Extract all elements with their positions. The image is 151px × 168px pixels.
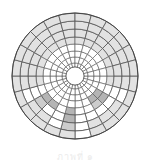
grid-cell	[67, 44, 75, 52]
polar-grid-diagram	[0, 0, 151, 168]
center-circle	[66, 67, 84, 85]
grid-cell	[75, 100, 83, 108]
grid-cell	[43, 76, 51, 84]
grid-cell	[99, 68, 107, 76]
figure-caption: ภาพที่ ๑	[0, 150, 151, 164]
